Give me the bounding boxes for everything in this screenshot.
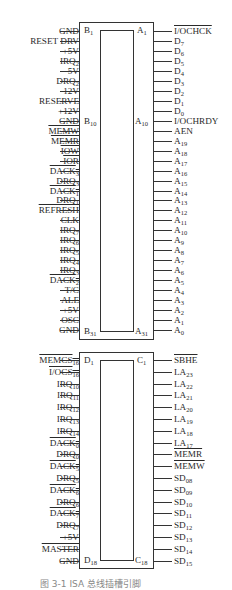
pin-signal-a9: A9 <box>174 235 184 245</box>
pin-wire <box>60 330 79 331</box>
pin-wire <box>153 384 172 385</box>
pin-wire <box>153 61 172 62</box>
pin-wire <box>153 466 172 467</box>
pin-signal-aen: AEN <box>174 126 193 136</box>
pin-wire <box>153 537 172 538</box>
pin-signal-a13: A13 <box>174 195 187 205</box>
pin-signal-la20: LA20 <box>174 402 193 412</box>
pin-wire <box>60 111 79 112</box>
pin-signal-a19: A19 <box>174 136 187 146</box>
pin-signal-sd08: SD08 <box>174 473 192 483</box>
pin-wire <box>60 270 79 271</box>
pin-signal-a2: A2 <box>174 305 184 315</box>
pin-label-a10: A10 <box>135 116 148 126</box>
pin-wire <box>60 101 79 102</box>
pin-signal-sd09: SD09 <box>174 485 192 495</box>
pin-wire <box>153 300 172 301</box>
pin-signal-a1: A1 <box>174 315 184 325</box>
pin-wire <box>153 525 172 526</box>
pin-wire <box>60 372 79 373</box>
pin-wire <box>60 51 79 52</box>
pin-wire <box>153 360 172 361</box>
pin-wire <box>153 220 172 221</box>
pin-wire <box>153 502 172 503</box>
pin-wire <box>60 431 79 432</box>
pin-wire <box>60 81 79 82</box>
pin-wire <box>60 513 79 514</box>
pin-signal-la21: LA21 <box>174 390 193 400</box>
pin-signal-a6: A6 <box>174 265 184 275</box>
isa-connector-cd-slot <box>100 360 134 561</box>
pin-wire <box>60 454 79 455</box>
pin-wire <box>153 250 172 251</box>
pin-wire <box>60 395 79 396</box>
pin-wire <box>153 181 172 182</box>
pin-wire <box>153 210 172 211</box>
pin-wire <box>153 200 172 201</box>
pin-signal-sd13: SD13 <box>174 532 192 542</box>
pin-wire <box>153 395 172 396</box>
pin-signal-d4: D4 <box>174 66 184 76</box>
pin-wire <box>60 141 79 142</box>
pin-signal-sd15: SD15 <box>174 556 192 566</box>
pin-label-b31: B31 <box>84 326 97 336</box>
pin-signal-la22: LA22 <box>174 379 193 389</box>
pin-signal-la18: LA18 <box>174 426 193 436</box>
pin-wire <box>153 431 172 432</box>
pin-wire <box>60 121 79 122</box>
pin-wire <box>60 419 79 420</box>
pin-wire <box>60 31 79 32</box>
pin-signal-sbhe: SBHE <box>174 355 198 365</box>
pin-label-d1: D1 <box>84 355 94 365</box>
pin-wire <box>60 443 79 444</box>
pin-signal-d3: D3 <box>174 76 184 86</box>
pin-signal-sd14: SD14 <box>174 544 192 554</box>
pin-wire <box>60 478 79 479</box>
pin-signal-a16: A16 <box>174 166 187 176</box>
pin-wire <box>60 171 79 172</box>
pin-wire <box>153 81 172 82</box>
pin-wire <box>153 270 172 271</box>
pin-signal-i-ochrdy: I/OCHRDY <box>174 116 218 126</box>
pin-signal-a12: A12 <box>174 205 187 215</box>
pin-signal-a8: A8 <box>174 245 184 255</box>
pin-wire <box>153 51 172 52</box>
pin-wire <box>60 161 79 162</box>
pin-signal-i-ochck: I/OCHCK <box>174 26 212 36</box>
pin-wire <box>60 537 79 538</box>
pin-wire <box>153 310 172 311</box>
pin-wire <box>60 300 79 301</box>
pin-wire <box>60 360 79 361</box>
pin-label-a31: A31 <box>135 326 148 336</box>
pin-wire <box>60 131 79 132</box>
pin-label-b10: B10 <box>84 116 97 126</box>
isa-connector-ab-slot <box>100 30 134 332</box>
pin-wire <box>153 454 172 455</box>
pin-wire <box>153 31 172 32</box>
pin-wire <box>153 290 172 291</box>
pin-signal-a4: A4 <box>174 285 184 295</box>
pin-wire <box>60 290 79 291</box>
pin-signal-sd12: SD12 <box>174 520 192 530</box>
pin-wire <box>60 502 79 503</box>
pin-wire <box>153 71 172 72</box>
pin-signal-d6: D6 <box>174 46 184 56</box>
pin-wire <box>60 260 79 261</box>
pin-signal-a17: A17 <box>174 156 187 166</box>
pin-wire <box>153 171 172 172</box>
pin-wire <box>60 280 79 281</box>
pin-wire <box>60 230 79 231</box>
pin-signal-d1: D1 <box>174 96 184 106</box>
pin-signal-a0: A0 <box>174 325 184 335</box>
pin-signal-d7: D7 <box>174 36 184 46</box>
pin-wire <box>60 490 79 491</box>
pin-signal-a5: A5 <box>174 275 184 285</box>
pin-signal-la23: LA23 <box>174 367 193 377</box>
pin-wire <box>153 121 172 122</box>
pin-signal-d0: D0 <box>174 106 184 116</box>
pin-signal-sd11: SD11 <box>174 508 192 518</box>
pin-wire <box>153 513 172 514</box>
pin-wire <box>153 191 172 192</box>
figure-caption: 图 3-1 ISA 总线插槽引脚 <box>40 577 141 590</box>
pin-signal-d5: D5 <box>174 56 184 66</box>
